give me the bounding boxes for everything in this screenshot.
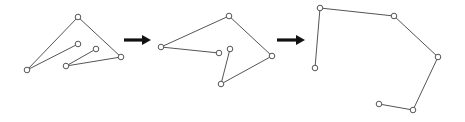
joint-node	[93, 46, 99, 52]
chain-state-1	[24, 14, 124, 73]
joint-node	[118, 54, 124, 60]
joint-node	[376, 101, 382, 107]
joint-node	[75, 14, 81, 20]
joint-node	[226, 13, 232, 19]
chain-edges	[315, 8, 438, 110]
joint-node	[410, 107, 416, 113]
arrows-group	[124, 35, 305, 45]
joint-node	[269, 53, 275, 59]
joint-node	[158, 44, 164, 50]
chain-state-2	[158, 13, 275, 87]
joint-node	[218, 81, 224, 87]
chain-state-3	[312, 5, 441, 113]
joint-node	[24, 67, 30, 73]
joint-node	[312, 65, 318, 71]
joint-node	[435, 54, 441, 60]
arrow-1-right-arrow-icon	[124, 35, 151, 45]
joint-node	[227, 46, 233, 52]
joint-node	[75, 41, 81, 47]
diagram-canvas	[0, 0, 465, 122]
joint-node	[63, 63, 69, 69]
chain-edges	[27, 17, 121, 70]
joint-node	[391, 13, 397, 19]
joint-node	[216, 50, 222, 56]
figures-group	[24, 5, 441, 113]
chain-edges	[161, 16, 272, 84]
arrow-2-right-arrow-icon	[277, 35, 305, 45]
joint-node	[317, 5, 323, 11]
